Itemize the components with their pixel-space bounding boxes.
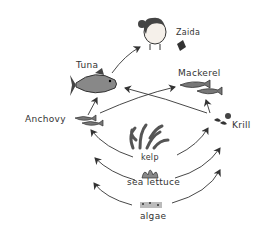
zaida-person-icon bbox=[138, 18, 166, 50]
mackerel-fish-icon bbox=[180, 80, 222, 95]
snack-icon bbox=[177, 40, 186, 51]
arrow-kelp-to-anchovy bbox=[91, 130, 133, 157]
arrow-anchovy-to-tuna bbox=[88, 98, 97, 115]
label-krill: Krill bbox=[232, 120, 251, 130]
tuna-fish-icon bbox=[70, 68, 117, 96]
arrow-krill-to-mackerel bbox=[206, 100, 210, 113]
arrow-krill-to-tuna bbox=[125, 88, 207, 113]
label-anchovy: Anchovy bbox=[25, 114, 66, 124]
label-mackerel: Mackerel bbox=[178, 68, 221, 78]
label-tuna: Tuna bbox=[76, 60, 98, 70]
algae-icon bbox=[140, 202, 162, 208]
kelp-icon bbox=[131, 125, 168, 148]
label-algae: algae bbox=[140, 211, 166, 221]
arrow-kelp-to-krill bbox=[177, 128, 208, 155]
label-kelp: kelp bbox=[141, 153, 159, 162]
anchovy-fish-icon bbox=[75, 115, 103, 126]
food-web-diagram: Zaida Tuna Mackerel Anchovy Krill kelp s… bbox=[0, 0, 267, 241]
arrow-tuna-to-zaida bbox=[112, 47, 140, 73]
krill-icon bbox=[214, 113, 231, 125]
label-zaida: Zaida bbox=[176, 28, 200, 37]
label-sea-lettuce: sea lettuce bbox=[127, 177, 180, 187]
